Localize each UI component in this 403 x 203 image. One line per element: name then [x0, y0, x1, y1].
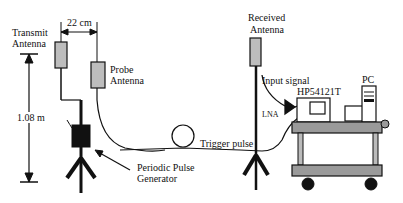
probe-antenna-label-2: Antenna	[110, 75, 144, 86]
transmit-antenna-icon	[55, 42, 67, 68]
received-antenna-icon	[250, 38, 261, 66]
measurement-setup-diagram: Transmit Antenna 22 cm Probe Antenna 1.0…	[0, 0, 403, 203]
received-antenna-label: Received	[248, 12, 285, 23]
pulse-generator-box	[72, 125, 90, 147]
probe-antenna-label: Probe	[110, 64, 133, 75]
received-antenna-label-2: Antenna	[250, 24, 284, 35]
spacing-label: 22 cm	[67, 17, 92, 28]
lna-amplifier-icon	[285, 100, 295, 114]
spacing-dimension-arrow	[61, 29, 97, 35]
probe-antenna-stand	[91, 22, 165, 151]
pulse-generator-label: Periodic Pulse	[137, 162, 195, 173]
height-label: 1.08 m	[17, 112, 45, 123]
lna-label: LNA	[262, 109, 278, 120]
diagram-graphics	[0, 0, 403, 203]
pulse-generator-pointer	[95, 150, 130, 170]
transmit-antenna-stand	[55, 22, 95, 193]
transmit-antenna-label-2: Antenna	[12, 38, 46, 49]
pc-tower-icon	[362, 86, 376, 122]
oscilloscope-label: HP54121T	[297, 86, 341, 97]
input-signal-label: Input signal	[262, 75, 310, 86]
pulse-generator-label-2: Generator	[137, 173, 177, 184]
trigger-pulse-label: Trigger pulse	[200, 138, 253, 149]
pc-monitor-icon	[345, 106, 363, 121]
transmit-antenna-label: Transmit	[12, 27, 48, 38]
probe-antenna-icon	[91, 62, 105, 88]
pc-label: PC	[362, 74, 374, 85]
instrument-cart	[292, 86, 389, 190]
